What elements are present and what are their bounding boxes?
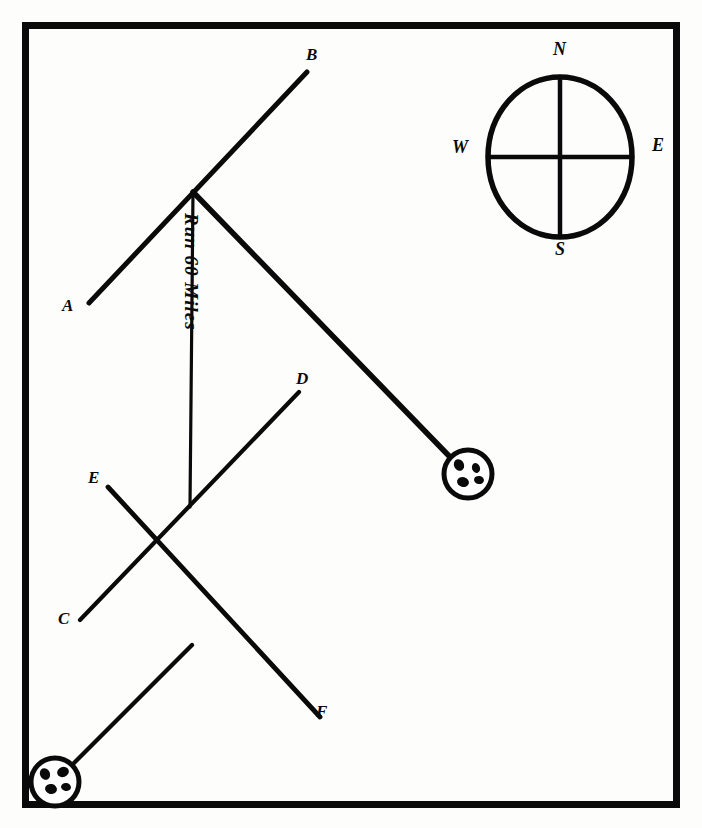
point-label-e: E [88, 469, 99, 486]
compass-label-east: E [652, 136, 664, 154]
compass-label-west: W [452, 138, 468, 156]
run-distance-label: Run 60 Miles [180, 213, 202, 331]
compass-label-south: S [555, 240, 565, 258]
navigation-diagram-canvas [0, 0, 702, 828]
border-rectangle [26, 26, 677, 805]
point-label-d: D [296, 370, 308, 387]
compass-label-north: N [553, 40, 566, 58]
station-marker-southwest [31, 758, 79, 806]
point-label-f: F [316, 703, 327, 720]
point-label-b: B [306, 46, 317, 63]
line-e-f [108, 487, 320, 717]
point-label-c: C [58, 610, 69, 627]
line-station-to-c-d [70, 645, 192, 767]
point-label-a: A [62, 297, 73, 314]
station-marker-east [444, 450, 492, 498]
compass-rose [488, 77, 632, 237]
diagram-page: A B C D E F N S W E Run 60 Miles [0, 0, 702, 828]
line-vertex-to-station [193, 192, 451, 458]
